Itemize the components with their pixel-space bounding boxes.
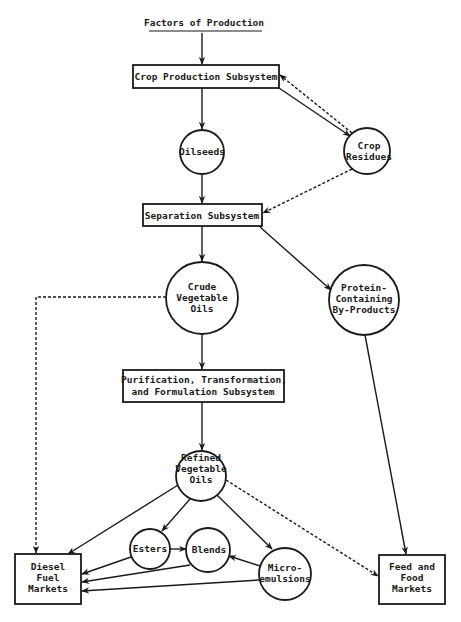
title-text: Factors of Production bbox=[144, 17, 264, 28]
edge-blends-to-diesel bbox=[82, 565, 190, 582]
edge-esters-to-diesel bbox=[82, 557, 131, 574]
blends-node: Blends bbox=[186, 528, 230, 572]
refined-oils-label-line3: Oils bbox=[190, 474, 213, 485]
refined-vegetable-oils-node: Refined Vegetable Oils bbox=[175, 451, 227, 501]
oilseeds-node: Oilseeds bbox=[179, 130, 225, 174]
crop-residues-label-line1: Crop bbox=[358, 140, 381, 151]
factors-of-production-title: Factors of Production bbox=[144, 17, 264, 31]
protein-label-line2: Containing bbox=[335, 293, 392, 304]
edge-microemulsions-to-diesel bbox=[82, 580, 259, 591]
feed-label-line2: Food bbox=[401, 572, 424, 583]
refined-oils-label-line1: Refined bbox=[181, 452, 221, 463]
edge-protein-to-feed-markets bbox=[365, 335, 406, 554]
crude-oils-label-line1: Crude bbox=[188, 281, 217, 292]
edge-crude-oils-to-diesel bbox=[36, 297, 166, 553]
flow-diagram: Factors of Production Crop Production Su… bbox=[0, 0, 461, 622]
blends-label: Blends bbox=[192, 544, 226, 555]
purification-label-line2: and Formulation Subsystem bbox=[132, 386, 275, 397]
feed-food-markets-node: Feed and Food Markets bbox=[379, 555, 445, 604]
edge-separation-to-protein bbox=[260, 227, 331, 290]
separation-subsystem-node: Separation Subsystem bbox=[143, 204, 262, 226]
microemulsions-label-line2: emulsions bbox=[259, 573, 310, 584]
edge-residues-to-separation bbox=[263, 169, 352, 213]
edge-refined-to-esters bbox=[162, 499, 190, 531]
edge-residues-to-crop-production bbox=[280, 75, 352, 133]
edge-microemulsions-to-blends bbox=[229, 556, 260, 566]
crude-oils-label-line2: Vegetable bbox=[176, 292, 228, 303]
feed-label-line1: Feed and bbox=[389, 561, 435, 572]
purification-label-line1: Purification, Transformation, bbox=[121, 374, 287, 385]
separation-label: Separation Subsystem bbox=[145, 210, 260, 221]
purification-subsystem-node: Purification, Transformation, and Formul… bbox=[121, 370, 287, 402]
diesel-label-line2: Fuel bbox=[37, 572, 60, 583]
crop-residues-label-line2: Residues bbox=[346, 151, 392, 162]
protein-byproducts-node: Protein- Containing By-Products bbox=[329, 265, 399, 335]
esters-label: Esters bbox=[133, 543, 167, 554]
refined-oils-label-line2: Vegetable bbox=[175, 463, 227, 474]
crude-oils-label-line3: Oils bbox=[191, 303, 214, 314]
crop-production-subsystem-node: Crop Production Subsystem bbox=[133, 65, 279, 88]
edge-crop-production-to-residues bbox=[279, 88, 350, 136]
esters-node: Esters bbox=[130, 529, 170, 569]
protein-label-line3: By-Products bbox=[333, 304, 396, 315]
oilseeds-label: Oilseeds bbox=[179, 146, 225, 157]
diesel-label-line1: Diesel bbox=[31, 561, 66, 572]
microemulsions-label-line1: Micro- bbox=[268, 562, 302, 573]
crude-vegetable-oils-node: Crude Vegetable Oils bbox=[166, 262, 238, 334]
diesel-label-line3: Markets bbox=[28, 583, 68, 594]
microemulsions-node: Micro- emulsions bbox=[259, 548, 311, 600]
crop-residues-node: Crop Residues bbox=[344, 128, 392, 174]
feed-label-line3: Markets bbox=[392, 583, 432, 594]
diesel-fuel-markets-node: Diesel Fuel Markets bbox=[15, 554, 81, 604]
crop-production-label: Crop Production Subsystem bbox=[135, 71, 278, 82]
protein-label-line1: Protein- bbox=[341, 282, 387, 293]
